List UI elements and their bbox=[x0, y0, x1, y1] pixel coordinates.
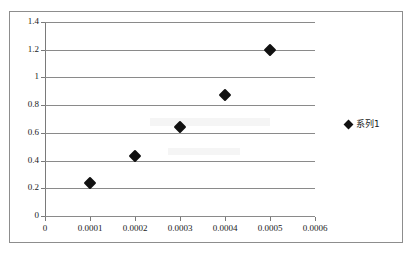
y-tick-label: 1 bbox=[5, 72, 39, 81]
y-tick-label: 0.6 bbox=[5, 128, 39, 137]
y-tick-label: 0.4 bbox=[5, 156, 39, 165]
y-axis-labels: 00.20.40.60.811.21.4 bbox=[0, 0, 39, 254]
x-tick-label: 0.0001 bbox=[78, 224, 103, 233]
gridline bbox=[45, 77, 315, 78]
y-tick-label: 0.8 bbox=[5, 100, 39, 109]
x-tick-label: 0 bbox=[43, 224, 48, 233]
y-tick-mark bbox=[41, 22, 45, 23]
y-tick-mark bbox=[41, 216, 45, 217]
diamond-icon bbox=[344, 119, 354, 129]
y-tick-mark bbox=[41, 188, 45, 189]
y-tick-label: 0 bbox=[5, 211, 39, 220]
x-tick-mark bbox=[180, 217, 181, 221]
x-tick-mark bbox=[135, 217, 136, 221]
x-tick-label: 0.0003 bbox=[168, 224, 193, 233]
chart-legend: 系列1 bbox=[345, 119, 380, 129]
y-tick-mark bbox=[41, 77, 45, 78]
y-tick-mark bbox=[41, 50, 45, 51]
x-tick-mark bbox=[225, 217, 226, 221]
gridline bbox=[45, 105, 315, 106]
y-tick-mark bbox=[41, 161, 45, 162]
gridline bbox=[45, 188, 315, 189]
x-tick-mark bbox=[270, 217, 271, 221]
x-tick-mark bbox=[90, 217, 91, 221]
gridline bbox=[45, 161, 315, 162]
y-tick-mark bbox=[41, 105, 45, 106]
y-tick-mark bbox=[41, 133, 45, 134]
x-tick-label: 0.0005 bbox=[258, 224, 283, 233]
legend-entry-label: 系列1 bbox=[356, 119, 380, 129]
x-tick-label: 0.0002 bbox=[123, 224, 148, 233]
gridline bbox=[45, 22, 315, 23]
x-tick-label: 0.0006 bbox=[303, 224, 328, 233]
y-tick-label: 1.4 bbox=[5, 17, 39, 26]
x-tick-mark bbox=[315, 217, 316, 221]
y-tick-label: 0.2 bbox=[5, 183, 39, 192]
x-tick-label: 0.0004 bbox=[213, 224, 238, 233]
y-tick-label: 1.2 bbox=[5, 45, 39, 54]
x-tick-mark bbox=[45, 217, 46, 221]
